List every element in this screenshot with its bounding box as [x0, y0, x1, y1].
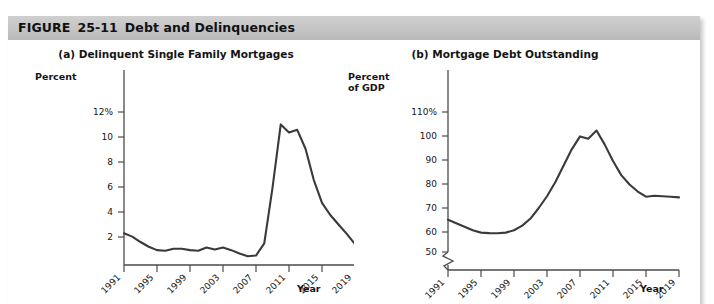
panel-a-xtick-label-2011: 2011: [264, 272, 287, 295]
panel-b-ytick-label-50: 50: [426, 247, 438, 257]
panel-a-data-line: [124, 124, 354, 256]
panel-a-ytick-label-10: 10: [102, 132, 114, 142]
figure-label: FIGURE: [18, 20, 70, 35]
panel-b-ytick-label-90: 90: [426, 155, 438, 165]
panel-a-xtick-label-2003: 2003: [198, 272, 221, 295]
panel-b-ytick-label-110: 110%: [411, 107, 437, 117]
figure-container: FIGURE25-11Debt and Delinquencies (a) De…: [8, 16, 700, 304]
figure-header-bar: FIGURE25-11Debt and Delinquencies: [8, 16, 700, 40]
panel-b-xtick-label-2011: 2011: [588, 277, 611, 300]
panel-b-ytick-label-100: 100: [420, 131, 437, 141]
panel-a-ytick-label-12: 12%: [93, 107, 113, 117]
panel-a-xtick-label-1991: 1991: [99, 272, 122, 295]
figure-body: (a) Delinquent Single Family Mortgages P…: [8, 40, 700, 304]
figure-title: Debt and Delinquencies: [125, 20, 295, 35]
panel-b-ytick-label-60: 60: [426, 227, 438, 237]
panel-b-xtick-label-2019: 2019: [654, 277, 677, 300]
panel-b-ytick-label-70: 70: [426, 203, 438, 213]
panel-a-plot: 12% 10 8 6 4 2 1991: [8, 40, 354, 304]
panel-b-x-ticks: 1991 1995 1999 2003 2007 2011 2015 2019: [423, 270, 679, 301]
panel-a-y-ticks: 12% 10 8 6 4 2: [93, 107, 124, 242]
chart-panel-b: (b) Mortgage Debt Outstanding Percent of…: [340, 40, 686, 304]
chart-panel-a: (a) Delinquent Single Family Mortgages P…: [8, 40, 354, 304]
panel-a-ytick-label-8: 8: [107, 157, 113, 167]
panel-b-data-line: [448, 131, 679, 234]
panel-a-x-ticks: 1991 1995 1999 2003 2007 2011 2015 2019: [99, 265, 354, 296]
panel-a-ytick-label-4: 4: [107, 207, 113, 217]
panel-a-xtick-label-1999: 1999: [165, 272, 188, 295]
panel-b-y-ticks: 110% 100 90 80 70 60 50: [411, 107, 448, 257]
panel-b-xtick-label-1991: 1991: [423, 277, 446, 300]
panel-b-xtick-label-1999: 1999: [489, 277, 512, 300]
figure-number: 25-11: [77, 20, 117, 35]
panel-a-ytick-label-2: 2: [107, 232, 113, 242]
panel-a-ytick-label-6: 6: [107, 182, 113, 192]
panel-a-xtick-label-1995: 1995: [132, 272, 155, 295]
panel-a-xtick-label-2015: 2015: [297, 272, 320, 295]
panel-b-xtick-label-2007: 2007: [555, 277, 578, 300]
panel-b-ytick-label-80: 80: [426, 179, 438, 189]
panel-a-xtick-label-2007: 2007: [231, 272, 254, 295]
figure-caption: FIGURE25-11Debt and Delinquencies: [18, 20, 295, 35]
panel-b-plot: 110% 100 90 80 70 60 50: [340, 40, 686, 304]
panel-b-xtick-label-1995: 1995: [456, 277, 479, 300]
panel-b-xtick-label-2003: 2003: [522, 277, 545, 300]
panel-b-xtick-label-2015: 2015: [621, 277, 644, 300]
